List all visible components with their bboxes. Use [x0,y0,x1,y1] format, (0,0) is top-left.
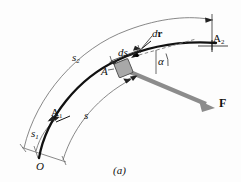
figure-caption: (a) [113,165,126,176]
point-A-marker [135,54,138,57]
label-A2-base: A [213,32,221,44]
label-A1-base: A [51,106,59,118]
label-alpha: α [158,56,164,67]
label-A2: A2 [213,33,224,44]
label-origin-O: O [36,161,44,172]
label-s2-sub: 2 [76,57,79,64]
s2-dimension-arc [24,18,213,148]
label-s: s [84,110,88,121]
diagram-canvas [0,0,241,182]
label-s1: s1 [31,128,39,139]
figure-container: s2 s s1 A1 A2 A O ds dr α F (a) [0,0,241,182]
label-A: A [101,66,108,77]
alpha-angle-arc [166,54,168,67]
label-dr: dr [152,28,162,39]
label-dr-r: r [158,27,163,39]
label-force-F: F [219,97,226,109]
force-arrow-head [199,101,215,113]
label-A1-sub: 1 [59,112,62,119]
A-label-leader [108,69,114,70]
baseline-bottom-left [22,148,66,163]
label-A1: A1 [51,107,62,118]
label-A2-sub: 2 [221,38,224,45]
force-arrow-shaft [130,72,206,104]
tick-s2-origin [20,144,26,152]
label-ds: ds [118,47,128,58]
label-s1-sub: 1 [35,133,38,140]
label-s2: s2 [72,52,80,63]
